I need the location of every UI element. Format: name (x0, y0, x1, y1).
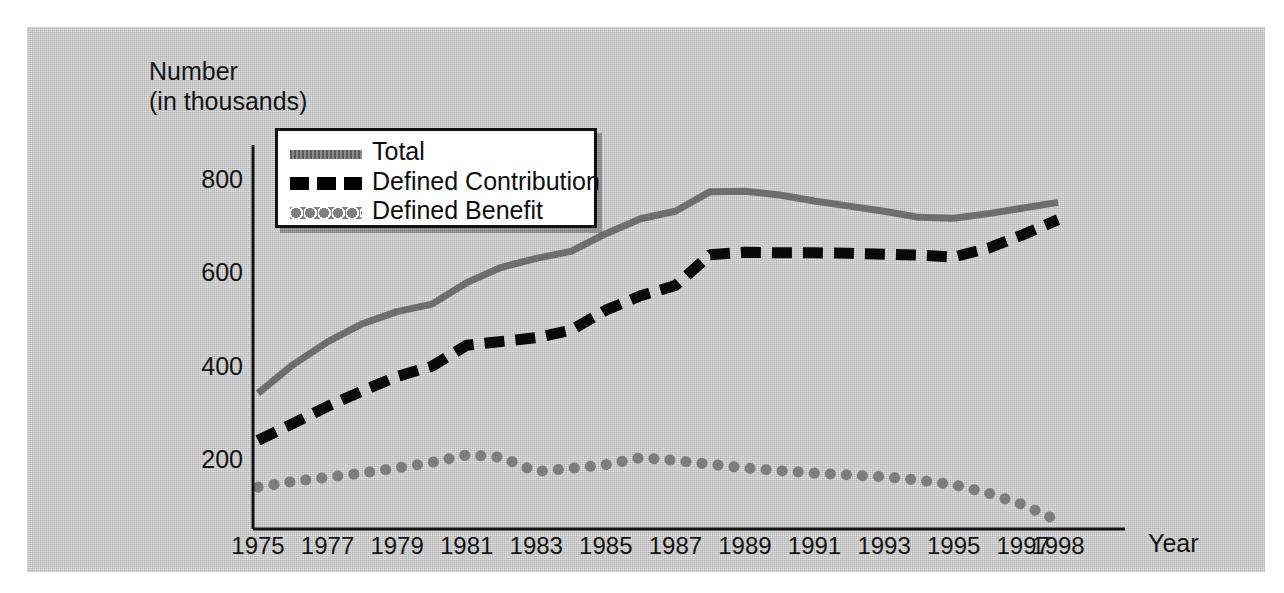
y-tick-label: 600 (165, 258, 243, 287)
y-axis-title-line1: Number (149, 57, 238, 85)
x-tick-label: 1987 (638, 532, 712, 560)
legend-label-total: Total (372, 137, 425, 166)
legend-swatch-dashed-line-icon (290, 177, 362, 190)
legend-label-defined-benefit: Defined Benefit (372, 196, 543, 225)
x-tick-label: 1979 (360, 532, 434, 560)
y-tick-label: 800 (165, 165, 243, 194)
y-tick-label: 200 (165, 445, 243, 474)
y-axis-title-line2: (in thousands) (149, 87, 307, 115)
x-tick-label: 1981 (430, 532, 504, 560)
x-tick-label: 1995 (917, 532, 991, 560)
x-tick-label: 1991 (778, 532, 852, 560)
x-tick-label: 1985 (569, 532, 643, 560)
legend-label-defined-contribution: Defined Contribution (372, 167, 600, 196)
x-tick-label: 1998 (1021, 532, 1095, 560)
y-axis-title: Number(in thousands) (149, 56, 307, 116)
chart-legend: Total Defined Contribution Defined Benef… (275, 128, 597, 228)
x-tick-label: 1983 (499, 532, 573, 560)
chart-figure: Number(in thousands) Year 200400600800 1… (0, 0, 1284, 593)
legend-item-defined-benefit[interactable]: Defined Benefit (290, 195, 543, 225)
y-tick-label: 400 (165, 352, 243, 381)
x-tick-label: 1993 (847, 532, 921, 560)
x-tick-label: 1989 (708, 532, 782, 560)
legend-item-total[interactable]: Total (290, 136, 425, 166)
legend-item-defined-contribution[interactable]: Defined Contribution (290, 166, 600, 196)
x-tick-label: 1977 (291, 532, 365, 560)
x-tick-label: 1975 (221, 532, 295, 560)
legend-swatch-total-line-icon (290, 150, 362, 159)
legend-swatch-dotted-line-icon (290, 207, 362, 219)
series-line-defined-contribution (258, 220, 1058, 441)
x-axis-title: Year (1148, 528, 1199, 558)
series-line-defined-benefit (258, 455, 1058, 521)
